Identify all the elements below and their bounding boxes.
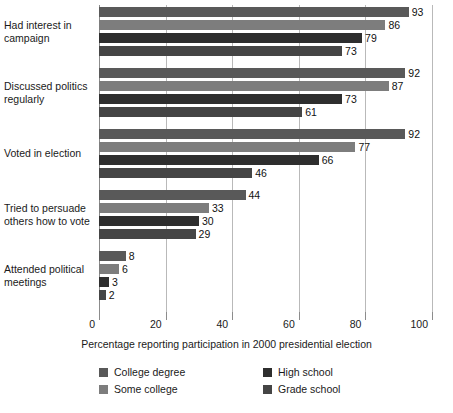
legend-item: High school [263,364,340,381]
bar-value-label: 87 [389,81,404,92]
category-label-line: Voted in election [4,147,96,160]
bar [99,107,302,117]
bar-row: 73 [99,94,453,104]
bar-row: 73 [99,46,453,56]
bar [99,94,342,104]
bar [99,277,109,287]
bar-row: 92 [99,68,453,78]
category-label: Tried to persuadeothers how to vote [4,202,96,227]
bar [99,7,409,17]
bar-row: 61 [99,107,453,117]
bar-value-label: 33 [209,203,224,214]
bar [99,81,389,91]
x-tick-mark [299,312,300,320]
category-label-line: others how to vote [4,215,96,228]
bar-value-label: 61 [302,107,317,118]
bar-value-label: 46 [252,168,267,179]
bar [99,203,209,213]
bar-group: 93867973 [99,7,432,56]
legend-swatch-icon [263,385,272,394]
bar-row: 79 [99,33,453,43]
bar [99,229,196,239]
bar-row: 66 [99,155,453,165]
bar-value-label: 2 [106,290,115,301]
bar [99,216,199,226]
bar-value-label: 6 [119,264,128,275]
bar [99,168,252,178]
category-label-line: Attended political [4,263,96,276]
x-tick-label: 100 [410,318,432,330]
bar [99,20,385,30]
bar-row: 93 [99,7,453,17]
bar-row: 3 [99,277,453,287]
x-axis-title: Percentage reporting participation in 20… [0,338,453,350]
bar-value-label: 92 [405,68,420,79]
bar-row: 29 [99,229,453,239]
x-tick-label: 60 [283,318,299,330]
legend-swatch-icon [99,368,108,377]
bar-value-label: 30 [199,216,214,227]
bar-group: 8632 [99,251,432,300]
bar-row: 92 [99,129,453,139]
x-tick-label: 0 [89,318,99,330]
bar-value-label: 66 [319,155,334,166]
bar-value-label: 79 [362,33,377,44]
legend-item: Some college [99,381,185,398]
legend-item: Grade school [263,381,340,398]
bar-group: 92776646 [99,129,432,178]
bar-value-label: 93 [409,7,424,18]
bar-row: 2 [99,290,453,300]
category-label: Had interest incampaign [4,19,96,44]
bar-value-label: 29 [196,229,211,240]
bar [99,46,342,56]
bar [99,190,246,200]
bar-row: 30 [99,216,453,226]
legend-item: College degree [99,364,185,381]
x-tick-mark [99,312,100,320]
bar-row: 44 [99,190,453,200]
bar [99,142,355,152]
x-tick-mark [365,312,366,320]
bar-row: 8 [99,251,453,261]
bar-value-label: 92 [405,129,420,140]
legend-label: High school [278,367,333,378]
bar-row: 77 [99,142,453,152]
legend-column-right: High schoolGrade school [263,364,340,398]
bar-row: 87 [99,81,453,91]
chart-figure: 938679739287736192776646443330298632 Had… [0,0,453,413]
bar-row: 86 [99,20,453,30]
bar-value-label: 8 [126,251,135,262]
category-label-line: regularly [4,93,96,106]
plot-area: 938679739287736192776646443330298632 [99,5,432,312]
legend-label: Grade school [278,384,340,395]
category-label-line: meetings [4,276,96,289]
bar-group: 92877361 [99,68,432,117]
bar-row: 46 [99,168,453,178]
x-tick-mark [432,312,433,320]
bar-value-label: 77 [355,142,370,153]
bar-row: 33 [99,203,453,213]
legend-column-left: College degreeSome college [99,364,185,398]
bar [99,264,119,274]
legend-label: Some college [114,384,178,395]
bar-value-label: 44 [246,190,261,201]
category-label-line: campaign [4,32,96,45]
bar-value-label: 73 [342,46,357,57]
legend-swatch-icon [263,368,272,377]
bar [99,251,126,261]
category-label-line: Discussed politics [4,80,96,93]
bar-group: 44333029 [99,190,432,239]
x-tick-label: 40 [217,318,233,330]
bar-value-label: 86 [385,20,400,31]
bar-row: 6 [99,264,453,274]
bar [99,129,405,139]
bar [99,290,106,300]
x-tick-mark [232,312,233,320]
x-tick-label: 80 [350,318,366,330]
legend-label: College degree [114,367,185,378]
bar-value-label: 3 [109,277,118,288]
bar [99,155,319,165]
category-label: Voted in election [4,147,96,160]
category-label-line: Tried to persuade [4,202,96,215]
x-tick-label: 20 [150,318,166,330]
